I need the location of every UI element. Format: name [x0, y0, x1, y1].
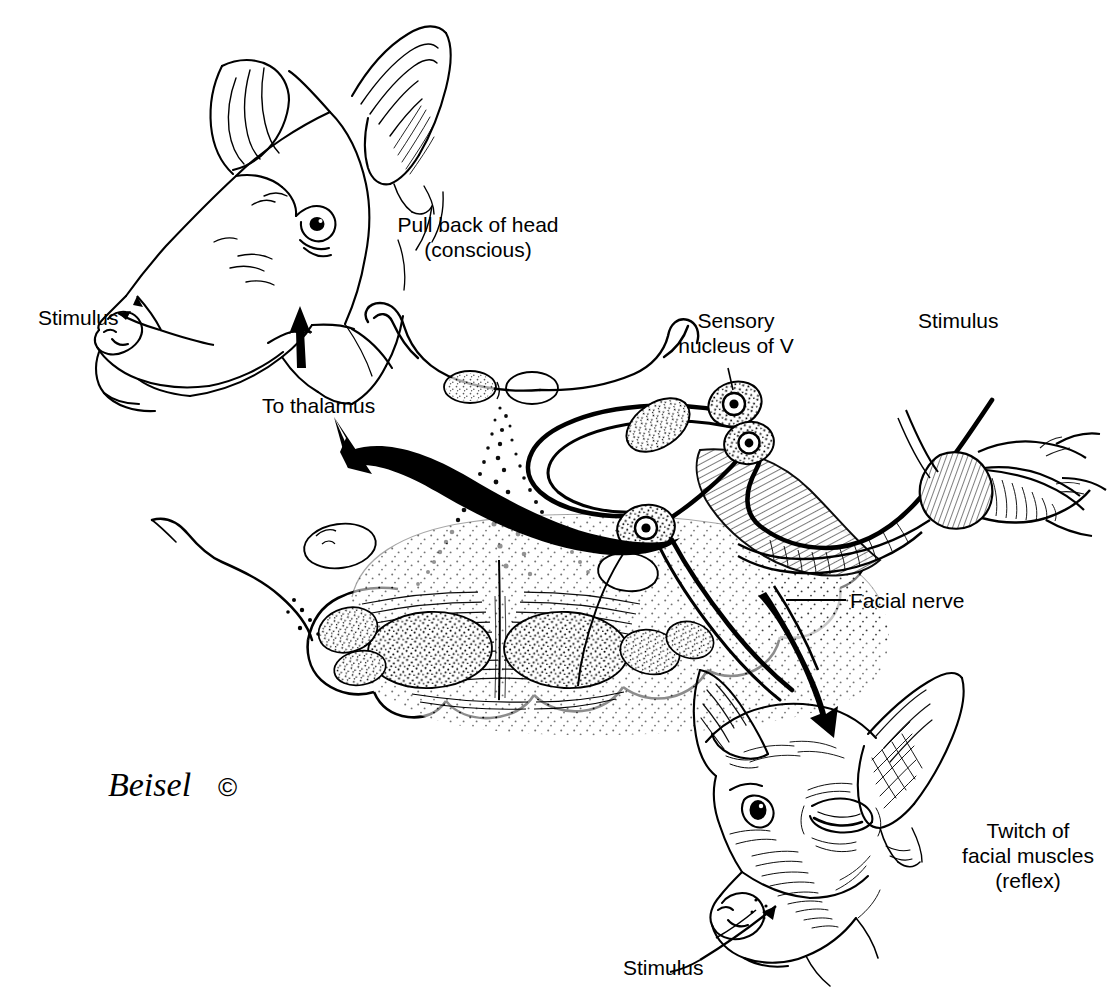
label-pull-back-of-head: Pull back of head(conscious) — [380, 212, 576, 262]
sensory-nucleus-line1: Sensory — [697, 309, 774, 332]
label-facial-nerve: Facial nerve — [850, 588, 964, 613]
diagram-artwork — [0, 0, 1109, 1005]
label-stimulus-bottom: Stimulus — [623, 955, 704, 980]
label-twitch-of-facial-muscles: Twitch offacial muscles(reflex) — [948, 818, 1108, 893]
pull-back-line1: Pull back of head — [397, 213, 558, 236]
artist-signature: Beisel — [108, 766, 191, 804]
label-to-thalamus: To thalamus — [262, 393, 375, 418]
arrow-to-head — [289, 306, 311, 368]
twitch-line3: (reflex) — [995, 869, 1060, 892]
trigeminal-ganglion — [898, 410, 1106, 536]
label-stimulus-top-left: Stimulus — [38, 305, 119, 330]
anatomical-figure: Stimulus Pull back of head(conscious) To… — [0, 0, 1109, 1005]
twitch-line2: facial muscles — [962, 844, 1094, 867]
pull-back-line2: (conscious) — [424, 238, 531, 261]
twitch-line1: Twitch of — [987, 819, 1070, 842]
copyright-symbol: © — [218, 775, 237, 800]
sensory-nucleus-line2: nucleus of V — [678, 334, 794, 357]
label-stimulus-top-right: Stimulus — [918, 308, 999, 333]
label-sensory-nucleus-of-v: Sensorynucleus of V — [648, 308, 824, 358]
stimulus-pointer-top — [118, 296, 214, 345]
